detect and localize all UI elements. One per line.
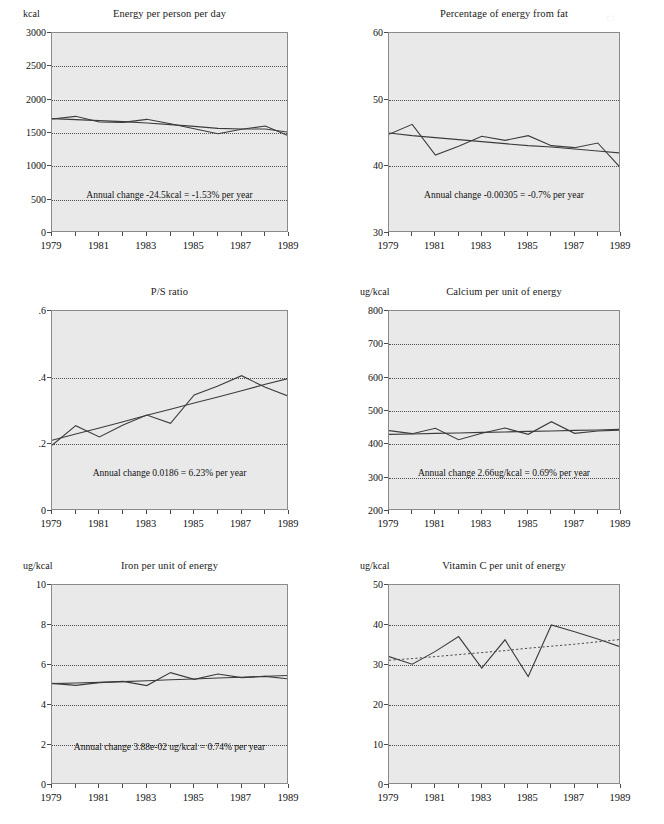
- x-tick-mark: [574, 510, 575, 514]
- x-tick-mark: [434, 784, 435, 788]
- y-tick-label: 8: [41, 619, 46, 630]
- y-tick-label: .6: [39, 305, 47, 316]
- x-tick-mark: [434, 232, 435, 236]
- y-tick-mark: [384, 443, 388, 444]
- y-tick-label: 400: [368, 438, 383, 449]
- x-tick-mark: [550, 784, 551, 788]
- x-tick-mark: [527, 784, 528, 788]
- x-tick-mark: [550, 510, 551, 514]
- x-tick-label: 1979: [378, 240, 399, 251]
- x-tick-label: 1979: [41, 792, 62, 803]
- x-tick-label: 1979: [378, 518, 399, 529]
- x-tick-mark: [388, 510, 389, 514]
- x-tick-label: 1989: [610, 518, 631, 529]
- y-tick-mark: [47, 443, 51, 444]
- x-tick-mark: [597, 232, 598, 236]
- annual-change-annotation: Annual change 3.88e-02 ug/kcal = 0.74% p…: [74, 742, 265, 752]
- x-tick-label: 1985: [517, 792, 538, 803]
- y-tick-label: 30: [373, 659, 383, 670]
- x-tick-mark: [193, 510, 194, 514]
- y-tick-label: 60: [373, 27, 383, 38]
- x-tick-mark: [620, 784, 621, 788]
- plot-area: [388, 310, 620, 510]
- x-tick-label: 1983: [470, 792, 491, 803]
- series-line-trend: [52, 378, 288, 440]
- x-tick-label: 1987: [563, 792, 584, 803]
- chart-panel-vitamin-c-per-unit-of-energy: Vitamin C per unit of energyug/kcal01020…: [332, 552, 664, 824]
- y-axis-unit-label: ug/kcal: [360, 286, 389, 297]
- y-tick-label: 800: [368, 305, 383, 316]
- x-tick-mark: [217, 510, 218, 514]
- x-tick-mark: [264, 510, 265, 514]
- x-tick-label: 1979: [41, 518, 62, 529]
- x-tick-mark: [241, 784, 242, 788]
- series-line-trend: [52, 119, 288, 133]
- y-tick-mark: [384, 32, 388, 33]
- x-tick-label: 1987: [230, 240, 251, 251]
- y-tick-label: 500: [368, 405, 383, 416]
- y-tick-label: 600: [368, 371, 383, 382]
- y-axis-unit-label: kcal: [23, 8, 40, 19]
- x-tick-mark: [217, 232, 218, 236]
- y-tick-mark: [47, 132, 51, 133]
- x-tick-mark: [458, 510, 459, 514]
- x-tick-mark: [411, 510, 412, 514]
- y-tick-label: 1500: [26, 127, 46, 138]
- x-tick-mark: [504, 232, 505, 236]
- y-tick-label: 4: [41, 699, 46, 710]
- series-layer: [52, 311, 288, 510]
- x-tick-mark: [193, 784, 194, 788]
- y-tick-mark: [384, 584, 388, 585]
- y-tick-label: 200: [368, 505, 383, 516]
- x-tick-mark: [527, 232, 528, 236]
- x-tick-mark: [288, 784, 289, 788]
- x-tick-label: 1987: [230, 792, 251, 803]
- x-tick-mark: [51, 510, 52, 514]
- x-tick-mark: [170, 510, 171, 514]
- plot-area: [51, 584, 288, 784]
- y-axis-unit-label: ug/kcal: [23, 560, 52, 571]
- y-tick-label: 40: [373, 160, 383, 171]
- x-tick-mark: [75, 232, 76, 236]
- y-tick-mark: [384, 99, 388, 100]
- chart-panel-calcium-per-unit-of-energy: Calcium per unit of energyug/kcal2003004…: [332, 278, 664, 553]
- y-tick-mark: [384, 704, 388, 705]
- chart-title: Vitamin C per unit of energy: [348, 560, 660, 571]
- x-tick-label: 1987: [563, 518, 584, 529]
- x-tick-mark: [481, 232, 482, 236]
- x-tick-label: 1981: [424, 240, 445, 251]
- x-tick-mark: [574, 232, 575, 236]
- figure-page: Energy per person per daykcal05001000150…: [0, 0, 664, 824]
- annual-change-annotation: Annual change 2.66ug/kcal = 0.69% per ye…: [418, 468, 590, 478]
- x-tick-label: 1989: [610, 240, 631, 251]
- x-tick-mark: [51, 232, 52, 236]
- x-tick-mark: [146, 232, 147, 236]
- annual-change-annotation: Annual change -0.00305 = -0.7% per year: [424, 190, 584, 200]
- annual-change-annotation: Annual change -24.5kcal = -1.53% per yea…: [86, 190, 252, 200]
- x-tick-label: 1979: [41, 240, 62, 251]
- series-line-observed: [52, 116, 288, 136]
- chart-panel-iron-per-unit-of-energy: Iron per unit of energyug/kcal0246810197…: [0, 552, 332, 824]
- plot-area: [51, 310, 288, 510]
- x-tick-mark: [388, 232, 389, 236]
- y-tick-label: 50: [373, 93, 383, 104]
- y-tick-mark: [47, 704, 51, 705]
- x-tick-mark: [434, 510, 435, 514]
- y-tick-mark: [47, 664, 51, 665]
- x-tick-label: 1979: [378, 792, 399, 803]
- y-tick-label: .2: [39, 438, 47, 449]
- y-tick-mark: [384, 477, 388, 478]
- y-tick-mark: [47, 624, 51, 625]
- x-tick-mark: [550, 232, 551, 236]
- series-layer: [389, 311, 620, 510]
- y-tick-label: 0: [41, 505, 46, 516]
- series-layer: [389, 585, 620, 784]
- y-axis-unit-label: ug/kcal: [360, 560, 389, 571]
- x-tick-mark: [146, 510, 147, 514]
- x-tick-label: 1985: [517, 240, 538, 251]
- y-tick-label: 2500: [26, 60, 46, 71]
- x-tick-label: 1985: [517, 518, 538, 529]
- series-line-trend: [52, 675, 288, 683]
- x-tick-mark: [241, 510, 242, 514]
- y-tick-label: 50: [373, 579, 383, 590]
